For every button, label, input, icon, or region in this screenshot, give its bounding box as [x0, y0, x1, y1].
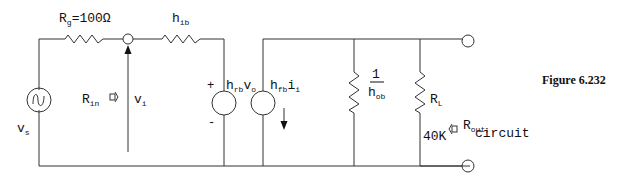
- hfb-label: hfbii: [270, 78, 300, 94]
- vi-arrow-head: [125, 45, 132, 54]
- rin-label: Rin: [82, 92, 100, 108]
- vs-label: vs: [17, 121, 30, 137]
- hob-denominator: hob: [368, 85, 386, 101]
- circuit-diagram: Rg=100Ω hib vs Rin vi + - hrbvo hfbii 1 …: [0, 0, 621, 179]
- input-loop-wires: [39, 39, 470, 166]
- hib-label: hib: [172, 11, 190, 27]
- output-terminal-top: [462, 35, 474, 47]
- hfb-current-source: [251, 91, 275, 115]
- rout-indicator-icon: [449, 124, 457, 134]
- rin-indicator-icon: [110, 92, 118, 102]
- hrb-label: hrbvo: [226, 78, 256, 94]
- rout-circuit-label: circuit: [475, 126, 530, 141]
- ac-source-vs: [27, 88, 51, 112]
- rg-label: Rg=100Ω: [59, 11, 111, 27]
- vi-label: vi: [134, 92, 147, 108]
- hrb-voltage-source: [212, 91, 236, 115]
- minus-sign: -: [208, 116, 215, 130]
- rl-value: 40K: [423, 129, 447, 144]
- input-node: [123, 34, 133, 44]
- rl-resistor: [415, 72, 425, 113]
- hib-resistor: [162, 35, 200, 43]
- plus-sign: +: [207, 79, 214, 93]
- hob-numerator: 1: [372, 67, 380, 82]
- hob-resistor: [349, 72, 359, 113]
- figure-caption: Figure 6.232: [542, 73, 606, 87]
- rg-resistor: [65, 35, 103, 43]
- hfb-arrow-head: [281, 121, 288, 130]
- rl-label: RL: [430, 92, 443, 108]
